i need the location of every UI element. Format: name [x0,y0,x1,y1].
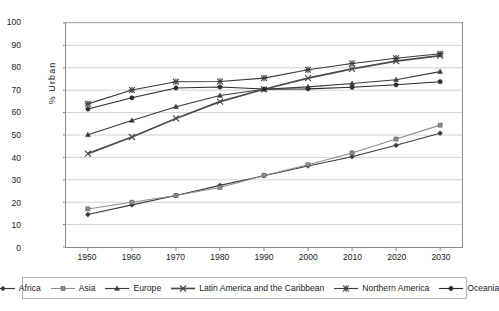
marker-square [174,193,178,197]
data-series-layer [66,23,462,247]
y-tick-100: 100 [0,17,21,27]
x-tick-2030: 2030 [418,252,464,262]
legend-swatch-x-icon [170,283,196,294]
marker-diamond [438,131,443,136]
y-tick-20: 20 [0,198,21,208]
marker-diamond [394,143,399,148]
x-tick-1960: 1960 [108,252,154,262]
marker-star [393,55,400,62]
legend-swatch-triangle-icon [104,283,130,294]
legend-label: Oceania [467,283,499,293]
y-tick-40: 40 [0,153,21,163]
x-tick-1990: 1990 [241,252,287,262]
x-tick-1970: 1970 [153,252,199,262]
chart-legend: AfricaAsiaEuropeLatin America and the Ca… [22,277,467,299]
legend-label: Latin America and the Caribbean [199,283,324,293]
marker-circle [394,83,398,87]
marker-circle [438,80,442,84]
legend-item-europe[interactable]: Europe [104,283,161,294]
marker-circle [262,87,266,91]
x-tick-1980: 1980 [197,252,243,262]
y-tick-0: 0 [0,243,21,253]
y-tick-50: 50 [0,130,21,140]
y-tick-60: 60 [0,107,21,117]
series-oceania [86,80,443,112]
y-tick-70: 70 [0,85,21,95]
marker-square [394,137,398,141]
marker-star [85,101,92,108]
marker-diamond [86,212,91,217]
legend-item-northern-america[interactable]: Northern America [333,283,429,294]
marker-circle [86,107,90,111]
legend-item-africa[interactable]: Africa [0,283,41,294]
marker-circle [350,85,354,89]
y-tick-10: 10 [0,220,21,230]
y-tick-80: 80 [0,62,21,72]
marker-star [305,67,312,74]
legend-label: Europe [133,283,161,293]
marker-star [343,285,350,292]
series-line [88,125,440,209]
legend-swatch-diamond-icon [0,283,16,294]
legend-swatch-star-icon [333,283,359,294]
series-line [88,82,440,109]
series-line [88,56,440,154]
marker-square [218,185,222,189]
marker-star [173,78,180,85]
plot-area [65,22,463,248]
series-northern-america [85,50,444,107]
legend-item-latin-america-and-the-caribbean[interactable]: Latin America and the Caribbean [170,283,324,294]
marker-star [129,87,136,94]
legend-item-asia[interactable]: Asia [50,283,96,294]
marker-circle [218,85,222,89]
marker-triangle [438,69,443,73]
marker-square [438,123,442,127]
marker-star [437,50,444,57]
marker-square [61,286,65,290]
y-tick-30: 30 [0,175,21,185]
legend-item-oceania[interactable]: Oceania [438,283,499,294]
x-tick-2020: 2020 [374,252,420,262]
marker-circle [306,87,310,91]
legend-swatch-square-icon [50,283,76,294]
marker-square [130,200,134,204]
y-axis-title: % Urban [47,23,57,143]
legend-label: Northern America [362,283,429,293]
y-tick-90: 90 [0,40,21,50]
marker-star [349,60,356,67]
marker-square [86,207,90,211]
marker-square [306,163,310,167]
marker-circle [130,96,134,100]
x-tick-1950: 1950 [64,252,110,262]
legend-label: Africa [19,283,41,293]
marker-square [262,174,266,178]
marker-star [217,78,224,85]
marker-star [261,75,268,82]
marker-circle [449,286,453,290]
series-asia [86,123,442,211]
legend-swatch-circle-icon [438,283,464,294]
marker-diamond [0,286,5,291]
legend-label: Asia [79,283,96,293]
marker-circle [174,86,178,90]
x-tick-2000: 2000 [285,252,331,262]
x-tick-2010: 2010 [330,252,376,262]
marker-square [350,151,354,155]
